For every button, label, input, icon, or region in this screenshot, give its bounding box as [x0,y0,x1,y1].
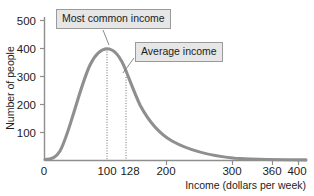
x-tick-label-360: 360 [262,165,281,177]
income-distribution-chart: 500 400 300 200 100 0 100 128 200 300 36… [0,0,314,196]
x-axis-title: Income (dollars per week) [185,179,306,191]
x-tick-label-0: 0 [41,165,47,177]
x-tick-label-200: 200 [156,165,175,177]
x-tick-label-100: 100 [97,165,116,177]
x-tick-label-400: 400 [287,165,306,177]
y-axis-title: Number of people [4,46,16,130]
x-tick-label-300: 300 [222,165,241,177]
callout-most-common-income: Most common income [56,9,171,29]
chart-canvas: 500 400 300 200 100 0 100 128 200 300 36… [0,0,314,196]
callout-average-income: Average income [135,42,223,62]
y-tick-label-400: 400 [17,43,36,55]
y-tick-label-500: 500 [17,15,36,27]
x-tick-label-128: 128 [120,165,139,177]
leader-line-most-common [103,30,109,45]
y-tick-label-300: 300 [17,71,36,83]
income-distribution-curve [45,49,306,160]
y-tick-label-100: 100 [17,127,36,139]
y-tick-label-200: 200 [17,99,36,111]
